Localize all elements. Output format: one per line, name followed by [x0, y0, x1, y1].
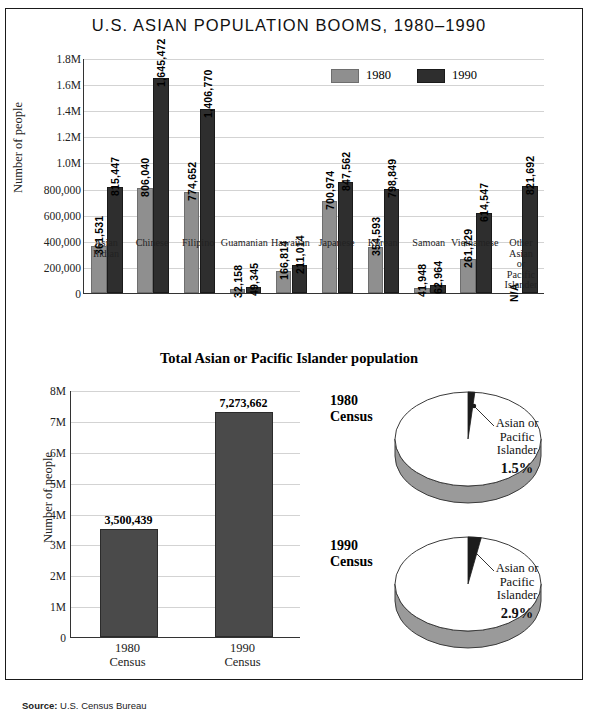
legend-item-1990: 1990: [417, 68, 477, 83]
y-tick-label: 2M: [32, 570, 66, 582]
bar-value-label: 798,849: [386, 158, 398, 197]
source-label: Source:: [22, 700, 57, 711]
y-tick-label: 4M: [32, 509, 66, 521]
section-subtitle: Total Asian or Pacific Islander populati…: [0, 350, 578, 367]
y-tick-label: 1.2M: [29, 131, 81, 143]
bar-value-label: 614,547: [478, 182, 490, 221]
pie-title: 1980Census: [330, 393, 392, 425]
top-chart-legend: 1980 1990: [331, 68, 477, 83]
page-title: U.S. ASIAN POPULATION BOOMS, 1980–1990: [0, 16, 578, 35]
bottom-chart-plot-area: 3,500,4397,273,662: [70, 391, 300, 638]
bar-value-label: 774,652: [186, 162, 198, 201]
legend-item-1980: 1980: [331, 68, 391, 83]
pie-leader-dot: [472, 549, 476, 553]
legend-swatch-1990-icon: [417, 69, 445, 83]
bar-value-label: 3,500,439: [74, 513, 184, 528]
bar-value-label: 1,645,472: [155, 39, 167, 88]
source-text: U.S. Census Bureau: [60, 700, 147, 711]
bar-value-label: 847,562: [340, 152, 352, 191]
y-tick-label: 600,000: [29, 210, 81, 222]
bar-value-label: 815,447: [109, 156, 121, 195]
bar-1990-vietnamese: [476, 213, 492, 293]
top-chart-y-ticks: 1.8M1.6M1.4M1.2M1.0M800,000600,000400,00…: [23, 59, 81, 294]
pie-chart-1990: 1990CensusAsian orPacificIslander2.9%: [330, 528, 560, 673]
y-tick-label: 1M: [32, 601, 66, 613]
y-tick-label: 400,000: [29, 236, 81, 248]
y-tick-label: 6M: [32, 447, 66, 459]
bar-value-label: 41,948: [416, 263, 428, 296]
pie-title-year: 1980: [330, 393, 358, 408]
y-tick-label: 200,000: [29, 262, 81, 274]
legend-label-1990: 1990: [452, 68, 477, 83]
pie-percentage: 2.9%: [478, 607, 556, 621]
y-tick-label: 800,000: [29, 184, 81, 196]
bar-value-label: 49,345: [248, 262, 260, 295]
bottom-chart-y-ticks: 8M7M6M5M4M3M2M1M0: [30, 391, 66, 638]
bar-value-label: 1,406,770: [202, 70, 214, 119]
y-tick-label: 5M: [32, 478, 66, 490]
pie-annotation: Asian orPacificIslander: [496, 561, 539, 602]
pie-caption: Asian orPacificIslander2.9%: [478, 562, 556, 620]
pie-leader-dot: [472, 404, 476, 408]
bar-1990-chinese: [153, 78, 169, 293]
y-tick-label: 1.0M: [29, 157, 81, 169]
y-tick-label: 7M: [32, 416, 66, 428]
legend-label-1980: 1980: [366, 68, 391, 83]
gridline: [71, 391, 300, 392]
bar-value-label: 821,692: [524, 155, 536, 194]
pie-chart-1980: 1980CensusAsian orPacificIslander1.5%: [330, 383, 560, 528]
bar-1980-census: [100, 529, 158, 637]
bar-1990-filipino: [200, 109, 216, 293]
pie-annotation: Asian orPacificIslander: [496, 416, 539, 457]
y-tick-label: 3M: [32, 539, 66, 551]
y-tick-label: 1.4M: [29, 105, 81, 117]
y-tick-label: 0: [32, 632, 66, 644]
bar-value-label: 806,040: [139, 157, 151, 196]
source-note: Source: U.S. Census Bureau: [22, 700, 147, 711]
legend-swatch-1980-icon: [331, 69, 359, 83]
x-tick-label: 1980Census: [70, 641, 185, 669]
pie-percentage: 1.5%: [478, 462, 556, 476]
y-tick-label: 1.8M: [29, 53, 81, 65]
bar-1990-census: [215, 412, 273, 637]
x-tick-label: OtherAsianorPacificIslander: [492, 238, 550, 291]
y-tick-label: 8M: [32, 385, 66, 397]
pie-title-census: Census: [330, 554, 373, 569]
pie-caption: Asian orPacificIslander1.5%: [478, 417, 556, 475]
pie-title: 1990Census: [330, 538, 392, 570]
bar-value-label: 7,273,662: [189, 396, 299, 411]
top-chart-plot-area: 361,531815,447806,0401,645,472774,6521,4…: [83, 59, 544, 294]
bar-value-label: 700,974: [324, 171, 336, 210]
pie-title-year: 1990: [330, 538, 358, 553]
y-tick-label: 0: [29, 288, 81, 300]
bar-value-label: 32,158: [232, 264, 244, 297]
x-tick-label: 1990Census: [185, 641, 300, 669]
bar-value-label: 62,964: [432, 260, 444, 293]
y-tick-label: 1.6M: [29, 79, 81, 91]
gridline: [84, 59, 544, 60]
pie-title-census: Census: [330, 409, 373, 424]
